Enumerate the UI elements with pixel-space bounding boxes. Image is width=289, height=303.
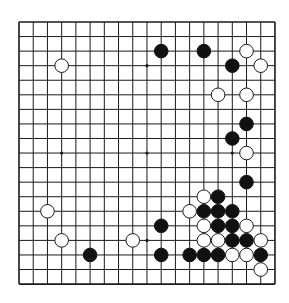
intersection[interactable] — [268, 204, 282, 219]
intersection[interactable] — [55, 73, 69, 88]
intersection[interactable] — [239, 262, 253, 277]
intersection[interactable] — [183, 29, 197, 44]
intersection[interactable] — [197, 58, 211, 73]
intersection[interactable] — [55, 44, 69, 59]
intersection[interactable] — [12, 15, 26, 30]
intersection[interactable] — [154, 88, 168, 103]
intersection[interactable] — [97, 189, 111, 204]
intersection[interactable] — [140, 58, 154, 73]
intersection[interactable] — [83, 175, 97, 190]
intersection[interactable] — [140, 262, 154, 277]
intersection[interactable] — [154, 131, 168, 146]
intersection[interactable] — [83, 58, 97, 73]
intersection[interactable] — [55, 88, 69, 103]
intersection[interactable] — [268, 131, 282, 146]
intersection[interactable] — [183, 262, 197, 277]
go-board[interactable] — [0, 0, 289, 303]
intersection[interactable] — [69, 102, 83, 117]
intersection[interactable] — [40, 117, 54, 132]
intersection[interactable] — [83, 233, 97, 248]
intersection[interactable] — [111, 88, 125, 103]
intersection[interactable] — [268, 160, 282, 175]
intersection[interactable] — [183, 58, 197, 73]
intersection[interactable] — [254, 189, 268, 204]
intersection[interactable] — [40, 277, 54, 292]
intersection[interactable] — [26, 189, 40, 204]
intersection[interactable] — [111, 233, 125, 248]
intersection[interactable] — [183, 117, 197, 132]
intersection[interactable] — [126, 29, 140, 44]
intersection[interactable] — [225, 160, 239, 175]
intersection[interactable] — [168, 233, 182, 248]
intersection[interactable] — [26, 262, 40, 277]
intersection[interactable] — [26, 88, 40, 103]
intersection[interactable] — [83, 160, 97, 175]
intersection[interactable] — [111, 277, 125, 292]
intersection[interactable] — [183, 73, 197, 88]
intersection[interactable] — [211, 277, 225, 292]
intersection[interactable] — [126, 131, 140, 146]
intersection[interactable] — [55, 131, 69, 146]
intersection[interactable] — [268, 189, 282, 204]
intersection[interactable] — [211, 146, 225, 161]
intersection[interactable] — [83, 44, 97, 59]
intersection[interactable] — [211, 58, 225, 73]
intersection[interactable] — [140, 15, 154, 30]
intersection[interactable] — [268, 58, 282, 73]
intersection[interactable] — [69, 189, 83, 204]
intersection[interactable] — [97, 262, 111, 277]
intersection[interactable] — [225, 262, 239, 277]
intersection[interactable] — [69, 219, 83, 234]
intersection[interactable] — [26, 146, 40, 161]
intersection[interactable] — [168, 73, 182, 88]
intersection[interactable] — [211, 175, 225, 190]
intersection[interactable] — [12, 146, 26, 161]
intersection[interactable] — [12, 44, 26, 59]
intersection[interactable] — [126, 189, 140, 204]
intersection[interactable] — [40, 44, 54, 59]
intersection[interactable] — [197, 73, 211, 88]
intersection[interactable] — [69, 262, 83, 277]
intersection[interactable] — [111, 15, 125, 30]
intersection[interactable] — [12, 131, 26, 146]
intersection[interactable] — [225, 15, 239, 30]
intersection[interactable] — [26, 219, 40, 234]
intersection[interactable] — [140, 29, 154, 44]
intersection[interactable] — [83, 219, 97, 234]
intersection[interactable] — [211, 29, 225, 44]
intersection[interactable] — [126, 73, 140, 88]
intersection[interactable] — [140, 102, 154, 117]
intersection[interactable] — [239, 277, 253, 292]
intersection[interactable] — [26, 233, 40, 248]
intersection[interactable] — [12, 233, 26, 248]
intersection[interactable] — [211, 73, 225, 88]
intersection[interactable] — [69, 175, 83, 190]
intersection[interactable] — [97, 160, 111, 175]
intersection[interactable] — [12, 277, 26, 292]
intersection[interactable] — [111, 248, 125, 263]
intersection[interactable] — [239, 73, 253, 88]
intersection[interactable] — [211, 102, 225, 117]
intersection[interactable] — [26, 44, 40, 59]
intersection[interactable] — [254, 73, 268, 88]
intersection[interactable] — [197, 131, 211, 146]
intersection[interactable] — [69, 131, 83, 146]
intersection[interactable] — [55, 219, 69, 234]
intersection[interactable] — [225, 146, 239, 161]
intersection[interactable] — [168, 15, 182, 30]
intersection[interactable] — [55, 277, 69, 292]
intersection[interactable] — [111, 175, 125, 190]
intersection[interactable] — [69, 73, 83, 88]
intersection[interactable] — [254, 146, 268, 161]
intersection[interactable] — [168, 219, 182, 234]
intersection[interactable] — [40, 58, 54, 73]
intersection[interactable] — [154, 175, 168, 190]
intersection[interactable] — [111, 29, 125, 44]
intersection[interactable] — [26, 175, 40, 190]
intersection[interactable] — [154, 58, 168, 73]
intersection[interactable] — [69, 44, 83, 59]
intersection[interactable] — [197, 117, 211, 132]
intersection[interactable] — [111, 44, 125, 59]
intersection[interactable] — [26, 204, 40, 219]
intersection[interactable] — [69, 233, 83, 248]
